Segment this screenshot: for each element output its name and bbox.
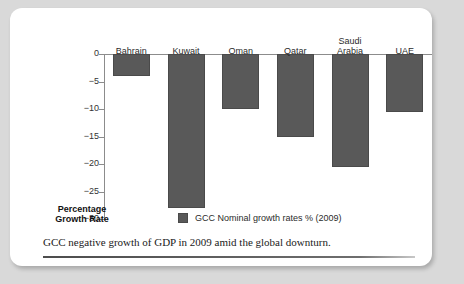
category-label-oman: Oman (210, 46, 271, 56)
y-axis-tick-label-text: 0 (65, 49, 99, 58)
category-label-uae: UAE (374, 46, 432, 56)
category-label-qatar: Qatar (265, 46, 326, 56)
y-axis-tick (99, 192, 105, 193)
figure-caption: GCC negative growth of GDP in 2009 amid … (43, 236, 403, 249)
bar-kuwait (168, 54, 205, 208)
y-axis-tick (99, 82, 105, 83)
legend-label: GCC Nominal growth rates % (2009) (195, 213, 342, 223)
y-axis-tick-label-text: −25 (65, 187, 99, 196)
bar-qatar (277, 54, 314, 137)
y-axis-tick-label-text: −5 (65, 77, 99, 86)
y-axis-tick-label: −25 (56, 187, 99, 196)
y-axis-title-line1: Percentage (50, 204, 114, 214)
chart-legend: GCC Nominal growth rates % (2009) (178, 213, 342, 223)
y-axis-tick (99, 137, 105, 138)
bar-uae (386, 54, 423, 112)
y-axis-tick-label-text: −15 (65, 132, 99, 141)
y-axis-tick-label-text: −20 (65, 159, 99, 168)
bar-saudi-arabia (332, 54, 369, 167)
y-axis-tick (99, 109, 105, 110)
figure-card: 0−5−10−15−20−25−30 BahrainKuwaitOmanQata… (10, 8, 432, 266)
category-label-kuwait: Kuwait (156, 46, 217, 56)
y-axis-tick-label: −10 (56, 104, 99, 113)
category-label-bahrain: Bahrain (101, 46, 162, 56)
y-axis-tick-label: 0 (56, 49, 99, 58)
bar-oman (222, 54, 259, 109)
category-label-saudi-arabia: SaudiArabia (320, 36, 381, 56)
y-axis-tick-label: −5 (56, 77, 99, 86)
bar-chart: 0−5−10−15−20−25−30 BahrainKuwaitOmanQata… (10, 8, 432, 226)
caption-divider (43, 256, 415, 258)
y-axis-title-line2: Growth Rate (50, 214, 114, 224)
legend-swatch-icon (178, 213, 188, 223)
y-axis-tick-label: −15 (56, 132, 99, 141)
y-axis-title: Percentage Growth Rate (50, 204, 114, 224)
bar-bahrain (113, 54, 150, 76)
y-axis-tick-label-text: −10 (65, 104, 99, 113)
y-axis-tick-label: −20 (56, 159, 99, 168)
y-axis-tick (99, 164, 105, 165)
